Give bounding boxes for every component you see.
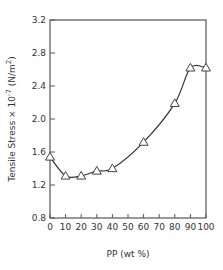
x-tick-label: 30 — [91, 222, 103, 232]
x-tick-label: 50 — [122, 222, 134, 232]
y-tick-label: 1.6 — [32, 147, 47, 157]
y-tick-label: 0.8 — [32, 213, 47, 223]
x-tick-label: 0 — [47, 222, 53, 232]
triangle-marker-icon — [186, 63, 195, 71]
x-tick-label: 100 — [197, 222, 214, 232]
plot-frame — [50, 20, 206, 218]
y-tick-label: 3.2 — [32, 15, 46, 25]
x-tick-label: 60 — [138, 222, 150, 232]
data-markers — [46, 63, 211, 179]
x-tick-label: 40 — [107, 222, 119, 232]
y-tick-label: 1.2 — [32, 180, 46, 190]
fit-curve — [50, 65, 206, 177]
y-tick-label: 2.0 — [32, 114, 47, 124]
x-axis-ticks: 0102030405060708090100 — [47, 214, 215, 232]
x-tick-label: 90 — [185, 222, 197, 232]
triangle-marker-icon — [170, 99, 179, 107]
y-axis-title: Tensile Stress × 10-7 (N/m2) — [5, 56, 17, 183]
triangle-marker-icon — [46, 152, 55, 160]
y-tick-label: 2.8 — [32, 48, 47, 58]
y-tick-label: 2.4 — [32, 81, 47, 91]
plot-axes — [50, 20, 206, 218]
x-tick-label: 10 — [60, 222, 72, 232]
x-tick-label: 70 — [153, 222, 165, 232]
x-tick-label: 20 — [75, 222, 87, 232]
tensile-stress-chart: 0102030405060708090100 0.81.21.62.02.42.… — [0, 0, 223, 270]
triangle-marker-icon — [108, 164, 117, 172]
x-axis-title: PP (wt %) — [106, 249, 149, 259]
x-tick-label: 80 — [169, 222, 181, 232]
y-axis-ticks: 0.81.21.62.02.42.83.2 — [32, 15, 55, 223]
